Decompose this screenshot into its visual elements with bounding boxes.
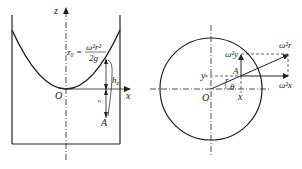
r-label: r [225, 75, 229, 85]
x-label: x [237, 91, 243, 102]
w2x-label: ω²x [279, 80, 292, 90]
z-axis-arrow-icon [63, 7, 69, 14]
hz-brace [108, 60, 112, 116]
diagram-canvas: z x O z₀ = ω²r² 2g hz z A O y x r θ A ω²… [0, 0, 302, 169]
theta-label: θ [230, 82, 235, 92]
x-axis-label: x [125, 90, 131, 101]
y-label: y [200, 70, 206, 81]
origin-label: O [55, 90, 62, 101]
vector-w2r [211, 55, 288, 89]
right-figure: O y x r θ A ω²y ω²r ω²x [150, 25, 292, 155]
origin-label: O [202, 92, 209, 103]
formula-numerator: ω²r² [86, 42, 102, 52]
formula-denominator: 2g [89, 53, 99, 63]
hz-label: hz [112, 75, 120, 86]
arrow-up-icon [104, 89, 108, 95]
left-figure: z x O z₀ = ω²r² 2g hz z A [12, 5, 131, 160]
formula-lhs: z₀ = [66, 47, 82, 57]
point-a-label: A [100, 117, 108, 128]
w2y-label: ω²y [225, 49, 238, 59]
z-axis-label: z [53, 5, 58, 16]
z-label: z [96, 99, 104, 103]
w2r-label: ω²r [279, 40, 292, 50]
point-a-label: A [232, 66, 239, 76]
